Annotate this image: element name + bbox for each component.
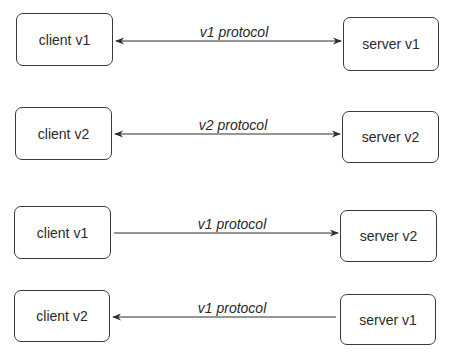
client-node: client v1: [16, 13, 113, 66]
client-node-label: client v1: [39, 32, 90, 48]
client-node: client v2: [15, 107, 112, 160]
server-node: server v2: [340, 210, 437, 262]
client-node-label: client v1: [37, 225, 88, 241]
server-node: server v2: [342, 111, 439, 163]
server-node-label: server v1: [359, 312, 417, 328]
server-node: server v1: [340, 294, 436, 345]
server-node: server v1: [343, 17, 439, 71]
client-node-label: client v2: [38, 126, 89, 142]
protocol-label: v1 protocol: [198, 300, 266, 316]
protocol-label: v1 protocol: [198, 216, 266, 232]
server-node-label: server v2: [362, 129, 420, 145]
server-node-label: server v1: [362, 36, 420, 52]
client-node: client v2: [14, 290, 110, 342]
client-node: client v1: [14, 206, 111, 259]
client-node-label: client v2: [36, 308, 87, 324]
protocol-label: v1 protocol: [200, 24, 268, 40]
server-node-label: server v2: [360, 228, 418, 244]
protocol-label: v2 protocol: [199, 117, 267, 133]
